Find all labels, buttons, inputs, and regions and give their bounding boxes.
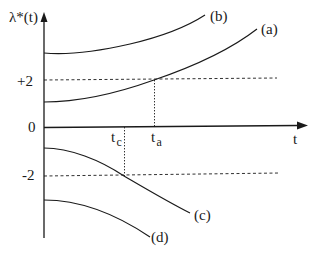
curve-b xyxy=(44,15,205,54)
x-axis-label: t xyxy=(293,131,298,147)
x-axis xyxy=(44,126,298,128)
y-tick-minus-two: -2 xyxy=(22,167,35,183)
curve-d xyxy=(44,200,150,237)
y-axis-arrow-icon xyxy=(41,12,48,22)
curve-b-label: (b) xyxy=(210,8,228,25)
svg-text:t: t xyxy=(111,129,116,145)
origin-label: 0 xyxy=(28,119,36,135)
curve-c-label: (c) xyxy=(194,207,211,224)
tc-marker-label: t c xyxy=(111,129,122,149)
curve-d-label: (d) xyxy=(151,229,169,246)
curve-a-label: (a) xyxy=(261,21,278,38)
curve-a xyxy=(44,29,257,102)
svg-text:a: a xyxy=(157,135,163,149)
svg-text:c: c xyxy=(117,135,122,149)
lambda-star-diagram: λ*(t) t 0 +2 -2 t c t a (b) (a) (c) (d) xyxy=(0,0,322,253)
x-axis-arrow-icon xyxy=(297,122,308,130)
y-axis-label: λ*(t) xyxy=(9,9,38,26)
y-tick-plus-two: +2 xyxy=(17,73,33,89)
curve-c xyxy=(44,148,190,213)
svg-text:t: t xyxy=(151,129,156,145)
ta-marker-label: t a xyxy=(151,129,163,149)
minus-two-dashed-line xyxy=(44,173,280,176)
